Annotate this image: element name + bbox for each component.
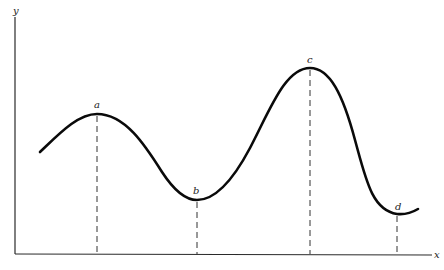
point-label-d: d <box>395 201 401 212</box>
x-axis-label: x <box>434 249 440 260</box>
x-axis <box>15 254 432 255</box>
y-axis-label: y <box>12 5 19 16</box>
extrema-diagram: y x a b c d <box>0 0 444 270</box>
point-label-b: b <box>193 185 199 196</box>
point-label-c: c <box>307 54 313 65</box>
point-label-a: a <box>94 99 100 110</box>
